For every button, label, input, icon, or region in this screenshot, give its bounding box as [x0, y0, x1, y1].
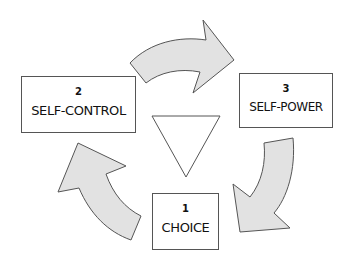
arrow-2-to-3-icon: [130, 20, 234, 93]
step-box-2: 2 SELF-CONTROL: [21, 76, 136, 133]
step-box-1: 1 CHOICE: [152, 193, 219, 250]
step-number: 1: [153, 203, 218, 214]
arrow-1-to-2-icon: [58, 143, 141, 240]
center-triangle-icon: [152, 116, 220, 177]
step-number: 2: [22, 86, 135, 97]
step-label: CHOICE: [153, 220, 218, 235]
step-label: SELF-POWER: [240, 100, 332, 114]
step-box-3: 3 SELF-POWER: [239, 73, 333, 128]
step-label: SELF-CONTROL: [22, 103, 135, 118]
arrow-3-to-1-icon: [233, 138, 294, 232]
step-number: 3: [240, 83, 332, 94]
